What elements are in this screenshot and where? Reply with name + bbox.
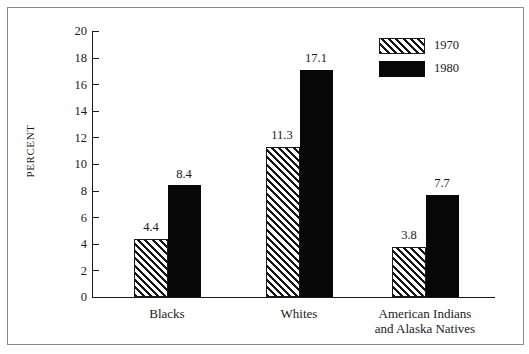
y-tick-12 [93, 137, 99, 138]
bar-blacks-1980 [168, 185, 201, 297]
y-tick-6 [93, 217, 99, 218]
y-tick-18 [93, 58, 99, 59]
y-tick-label-16: 16 [57, 79, 87, 92]
y-tick-label-6: 6 [57, 212, 87, 225]
legend-label-1970: 1970 [434, 39, 459, 53]
y-tick-14 [93, 111, 99, 112]
y-tick-2 [93, 270, 99, 271]
y-tick-label-14: 14 [57, 105, 87, 118]
category-label-american-indians-line1: American Indians [335, 307, 515, 322]
y-tick-label-12: 12 [57, 132, 87, 145]
y-tick-label-8: 8 [57, 185, 87, 198]
y-tick-label-0: 0 [57, 291, 87, 304]
bar-value-blacks-1980: 8.4 [161, 168, 207, 181]
y-tick-label-4: 4 [57, 238, 87, 251]
y-tick-label-2: 2 [57, 265, 87, 278]
y-tick-label-20: 20 [57, 25, 87, 38]
category-label-american-indians-line2: and Alaska Natives [335, 322, 515, 337]
hatched-swatch-icon [379, 38, 425, 54]
legend-label-1980: 1980 [434, 62, 459, 76]
bar-value-american-indians-1980: 7.7 [419, 177, 465, 190]
y-tick-20 [93, 31, 99, 32]
chart-figure: 20 18 16 14 12 10 8 6 4 2 0 PERCENT 4.4 … [0, 0, 529, 354]
y-axis-title: PERCENT [24, 106, 36, 196]
y-tick-16 [93, 84, 99, 85]
bar-blacks-1970 [134, 239, 168, 298]
bar-whites-1980 [300, 70, 333, 297]
solid-swatch-icon [379, 61, 425, 77]
y-tick-10 [93, 164, 99, 165]
bar-american-indians-1980 [426, 195, 459, 297]
y-tick-label-18: 18 [57, 52, 87, 65]
y-tick-label-10: 10 [57, 158, 87, 171]
bar-american-indians-1970 [392, 247, 426, 298]
bar-value-whites-1980: 17.1 [293, 52, 339, 65]
y-tick-8 [93, 191, 99, 192]
bar-whites-1970 [266, 147, 300, 297]
plot-area: 20 18 16 14 12 10 8 6 4 2 0 PERCENT 4.4 … [0, 0, 529, 354]
y-tick-0 [93, 297, 99, 298]
y-tick-4 [93, 244, 99, 245]
bar-value-whites-1970: 11.3 [259, 129, 305, 142]
